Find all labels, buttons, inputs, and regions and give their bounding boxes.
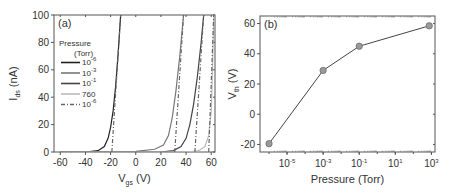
legend-label: 10-1 xyxy=(82,77,97,88)
y-tick-label: 60 xyxy=(244,18,256,29)
y-tick-label: 80 xyxy=(38,37,50,48)
panel-label-b: (b) xyxy=(264,18,277,30)
legend: Pressure(Torr)10-610-310-176010-6 xyxy=(59,39,97,109)
x-tick-label: 60 xyxy=(206,157,218,168)
y-tick-label: 0 xyxy=(43,147,49,158)
x-tick-label: -20 xyxy=(103,157,118,168)
figure: 020406080100-60-40-200204060(a)Pressure(… xyxy=(0,0,453,194)
vth-line xyxy=(269,26,429,144)
x-tick-label: 10-5 xyxy=(279,158,296,169)
x-tick-label: 0 xyxy=(133,157,139,168)
x-axis-label-a: Vgs (V) xyxy=(118,172,150,187)
legend-label: 10-3 xyxy=(82,67,97,78)
y-axis-label-b: Vth (V) xyxy=(226,69,240,100)
y-tick-label: 20 xyxy=(38,119,50,130)
data-point xyxy=(426,23,432,29)
y-tick-label: 0 xyxy=(249,109,255,120)
y-tick-label: 20 xyxy=(244,79,256,90)
x-tick-label: 10-1 xyxy=(351,158,368,169)
x-tick-label: -40 xyxy=(78,157,93,168)
legend-title: Pressure xyxy=(59,39,92,48)
y-tick-label: 40 xyxy=(38,92,50,103)
plot-frame-b xyxy=(260,16,435,152)
y-tick-label: 40 xyxy=(244,48,256,59)
y-tick-label: 100 xyxy=(32,10,49,21)
x-tick-label: -60 xyxy=(53,157,68,168)
y-tick-label: 60 xyxy=(38,64,50,75)
y-tick-label: -20 xyxy=(241,139,256,150)
data-point xyxy=(356,43,362,49)
x-axis-label-b: Pressure (Torr) xyxy=(311,173,384,185)
y-axis-label-a: Ids (nA) xyxy=(7,66,21,100)
x-tick-label: 20 xyxy=(155,157,167,168)
legend-label: 10-6 xyxy=(82,98,97,109)
data-point xyxy=(320,67,326,73)
legend-label: 10-6 xyxy=(82,56,97,67)
data-point xyxy=(266,140,272,146)
panel-label-a: (a) xyxy=(58,17,71,29)
x-tick-label: 101 xyxy=(388,158,403,169)
x-tick-label: 40 xyxy=(181,157,193,168)
panel-a: 020406080100-60-40-200204060(a)Pressure(… xyxy=(7,10,217,188)
panel-b: -20020406010-510-310-1101103(b)Pressure … xyxy=(226,16,439,185)
x-tick-label: 103 xyxy=(424,158,439,169)
x-tick-label: 10-3 xyxy=(315,158,332,169)
